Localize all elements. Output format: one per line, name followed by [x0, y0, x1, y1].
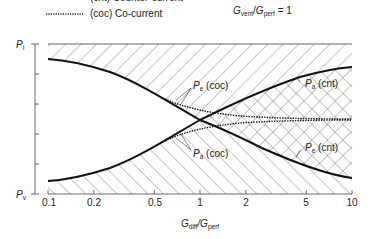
annotation-pa-coc: Pa (coc)	[193, 148, 228, 160]
cond-sub1: vent	[241, 10, 253, 17]
legend-cnt-label: (cnt) Counter-current	[90, 0, 183, 3]
y-bottom-label: Pv	[16, 189, 27, 201]
x-axis-ticks	[48, 190, 352, 194]
x-tick-0.5: 0.5	[148, 197, 162, 208]
annotation-pa-cnt: Pa (cnt)	[305, 78, 338, 90]
annotation-pe-cnt: Pe (cnt)	[305, 142, 338, 154]
x-axis-label: Gdiff/Gperf	[181, 218, 219, 231]
chart-figure: (cnt) Counter-current (coc) Co-current G…	[0, 0, 376, 239]
annotation-pe-coc: Pe (coc)	[193, 80, 228, 92]
condition-label: Gvent/Gperf = 1	[233, 5, 292, 18]
y-axis: PI Pv	[16, 39, 39, 201]
y-top-label: PI	[16, 39, 25, 51]
legend-coc-label: (coc) Co-current	[90, 8, 162, 19]
x-tick-2: 2	[243, 197, 249, 208]
x-tick-0.2: 0.2	[87, 197, 101, 208]
x-tick-10: 10	[346, 197, 358, 208]
cond-sub2: perf	[264, 10, 275, 18]
svg-text:Gvent/Gperf = 1: Gvent/Gperf = 1	[233, 5, 292, 18]
cond-value: = 1	[278, 5, 293, 16]
x-axis-tick-labels: 0.1 0.2 0.5 1 2 5 10	[42, 197, 358, 208]
legend: (cnt) Counter-current (coc) Co-current	[46, 0, 183, 19]
x-tick-0.1: 0.1	[42, 197, 56, 208]
x-tick-1: 1	[197, 197, 203, 208]
x-tick-5: 5	[303, 197, 309, 208]
